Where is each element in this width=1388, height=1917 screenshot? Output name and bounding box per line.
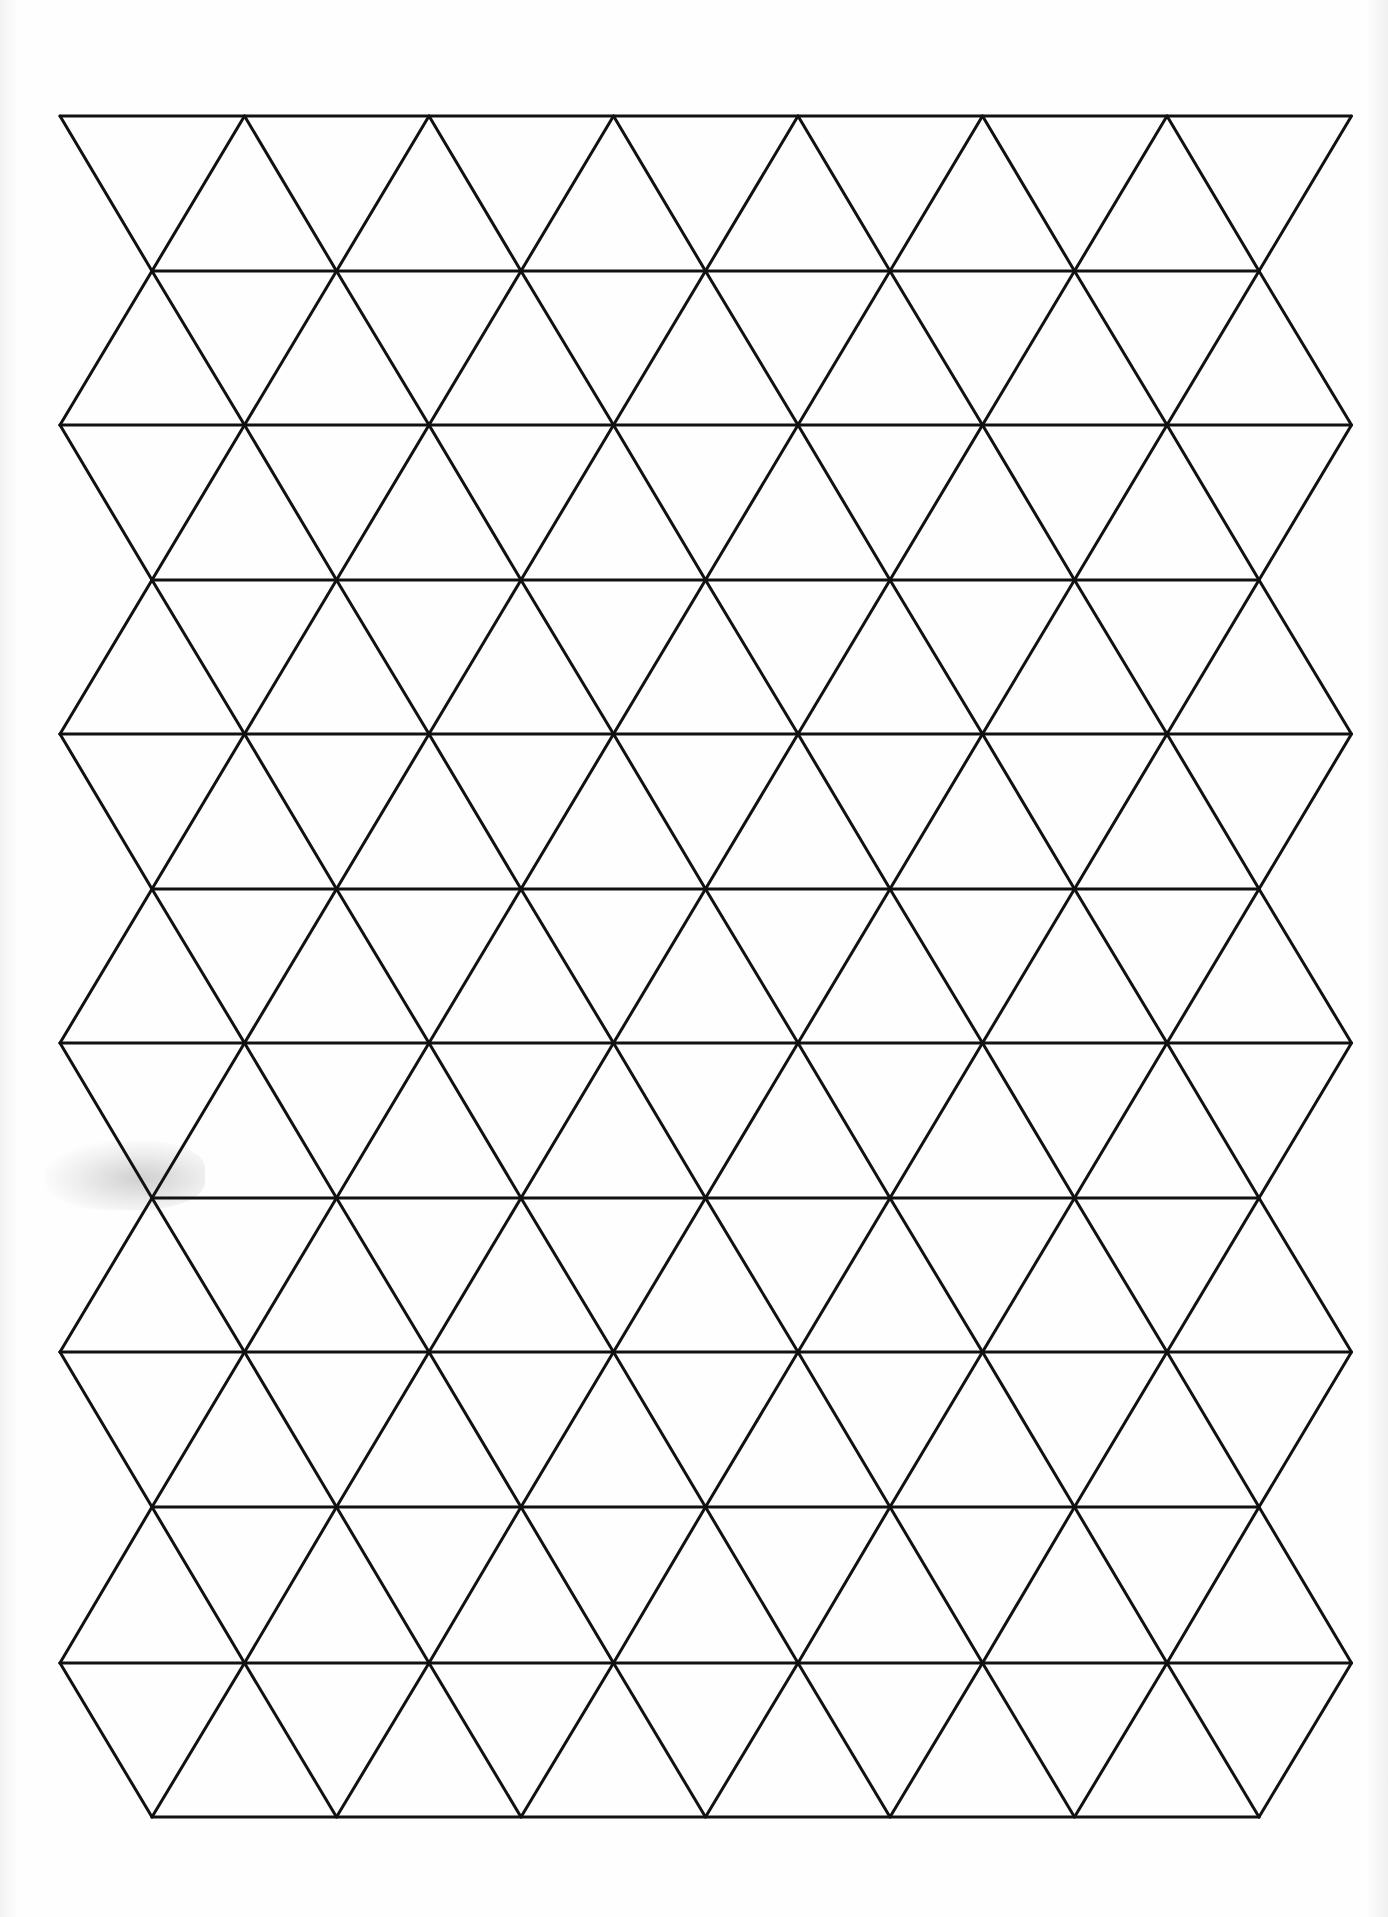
- grid-line-diagonal: [521, 116, 614, 271]
- grid-line-diagonal: [798, 889, 890, 1043]
- grid-line-diagonal: [521, 1198, 614, 1352]
- grid-line-diagonal: [337, 1198, 430, 1352]
- grid-line-diagonal: [60, 734, 152, 889]
- grid-line-diagonal: [706, 889, 799, 1043]
- grid-line-diagonal: [983, 889, 1075, 1043]
- grid-line-diagonal: [60, 889, 152, 1043]
- grid-line-diagonal: [983, 271, 1075, 425]
- grid-line-diagonal: [337, 1663, 430, 1817]
- grid-line-diagonal: [1167, 1507, 1259, 1663]
- grid-line-diagonal: [521, 1352, 614, 1507]
- grid-line-diagonal: [890, 271, 983, 425]
- grid-line-diagonal: [1167, 425, 1259, 580]
- grid-line-diagonal: [1167, 1352, 1259, 1507]
- grid-line-diagonal: [798, 1507, 890, 1663]
- grid-line-diagonal: [614, 1043, 706, 1198]
- grid-line-diagonal: [798, 734, 890, 889]
- grid-line-diagonal: [60, 1198, 152, 1352]
- grid-line-diagonal: [706, 580, 799, 734]
- grid-line-diagonal: [245, 580, 337, 734]
- grid-line-diagonal: [706, 1043, 799, 1198]
- grid-line-diagonal: [983, 116, 1075, 271]
- grid-line-diagonal: [1075, 1663, 1168, 1817]
- grid-line-diagonal: [1075, 1043, 1168, 1198]
- grid-line-diagonal: [798, 271, 890, 425]
- grid-line-diagonal: [245, 889, 337, 1043]
- grid-line-diagonal: [1075, 1198, 1168, 1352]
- grid-line-diagonal: [614, 1663, 706, 1817]
- grid-line-diagonal: [60, 271, 152, 425]
- grid-line-diagonal: [890, 116, 983, 271]
- triangle-grid: [0, 0, 1388, 1917]
- grid-line-diagonal: [983, 580, 1075, 734]
- grid-line-diagonal: [1259, 1352, 1352, 1507]
- grid-line-diagonal: [245, 425, 337, 580]
- grid-line-diagonal: [337, 889, 430, 1043]
- grid-line-diagonal: [706, 1663, 799, 1817]
- grid-line-diagonal: [1167, 1663, 1259, 1817]
- grid-line-diagonal: [1167, 580, 1259, 734]
- grid-line-diagonal: [890, 1198, 983, 1352]
- grid-line-diagonal: [245, 1198, 337, 1352]
- grid-line-diagonal: [245, 734, 337, 889]
- grid-line-diagonal: [245, 271, 337, 425]
- grid-line-diagonal: [429, 889, 521, 1043]
- grid-line-diagonal: [521, 1663, 614, 1817]
- grid-line-diagonal: [152, 425, 245, 580]
- grid-line-diagonal: [60, 580, 152, 734]
- grid-line-diagonal: [152, 271, 245, 425]
- grid-line-diagonal: [1075, 1507, 1168, 1663]
- grid-line-diagonal: [614, 425, 706, 580]
- grid-line-diagonal: [337, 425, 430, 580]
- grid-line-diagonal: [706, 271, 799, 425]
- grid-line-diagonal: [890, 580, 983, 734]
- grid-line-diagonal: [890, 1663, 983, 1817]
- grid-line-diagonal: [521, 425, 614, 580]
- grid-line-diagonal: [1167, 116, 1259, 271]
- grid-line-diagonal: [245, 1663, 337, 1817]
- grid-line-diagonal: [890, 734, 983, 889]
- grid-line-diagonal: [1259, 1507, 1352, 1663]
- grid-line-diagonal: [890, 1043, 983, 1198]
- grid-line-diagonal: [798, 1663, 890, 1817]
- grid-line-diagonal: [1167, 734, 1259, 889]
- grid-line-diagonal: [337, 271, 430, 425]
- grid-line-diagonal: [152, 1507, 245, 1663]
- grid-line-diagonal: [890, 889, 983, 1043]
- grid-line-diagonal: [1259, 1043, 1352, 1198]
- grid-line-diagonal: [1075, 580, 1168, 734]
- grid-line-diagonal: [1259, 889, 1352, 1043]
- grid-line-diagonal: [983, 1663, 1075, 1817]
- grid-line-diagonal: [706, 734, 799, 889]
- grid-line-diagonal: [798, 580, 890, 734]
- grid-line-diagonal: [614, 116, 706, 271]
- grid-line-diagonal: [337, 1043, 430, 1198]
- grid-line-diagonal: [60, 1663, 152, 1817]
- grid-line-diagonal: [429, 116, 521, 271]
- grid-line-diagonal: [337, 116, 430, 271]
- grid-line-diagonal: [429, 1663, 521, 1817]
- grid-line-diagonal: [152, 889, 245, 1043]
- grid-line-diagonal: [1167, 1198, 1259, 1352]
- grid-line-diagonal: [429, 425, 521, 580]
- grid-line-diagonal: [983, 1198, 1075, 1352]
- grid-line-diagonal: [614, 1198, 706, 1352]
- grid-line-diagonal: [706, 1352, 799, 1507]
- grid-line-diagonal: [429, 734, 521, 889]
- grid-line-diagonal: [1259, 271, 1352, 425]
- grid-line-diagonal: [1259, 1198, 1352, 1352]
- grid-line-diagonal: [60, 1352, 152, 1507]
- grid-line-diagonal: [1075, 271, 1168, 425]
- grid-line-diagonal: [60, 1043, 152, 1198]
- grid-line-diagonal: [983, 1507, 1075, 1663]
- grid-line-diagonal: [152, 580, 245, 734]
- grid-line-diagonal: [337, 1507, 430, 1663]
- grid-line-diagonal: [706, 1198, 799, 1352]
- grid-line-diagonal: [429, 271, 521, 425]
- grid-line-diagonal: [798, 1043, 890, 1198]
- grid-line-diagonal: [152, 1043, 245, 1198]
- grid-line-diagonal: [614, 580, 706, 734]
- grid-line-diagonal: [1259, 425, 1352, 580]
- grid-line-diagonal: [983, 734, 1075, 889]
- grid-line-diagonal: [245, 1352, 337, 1507]
